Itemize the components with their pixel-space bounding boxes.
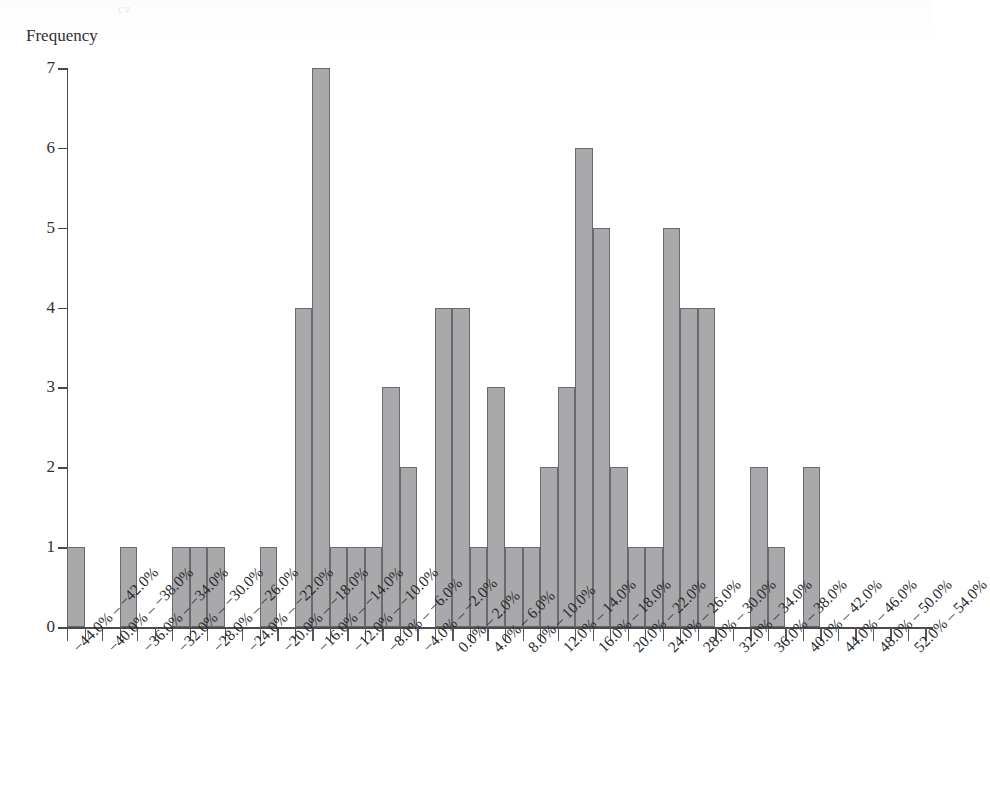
y-tick [58,547,67,549]
y-tick-label: 3 [27,378,55,395]
y-tick [58,387,67,389]
y-tick-label: 4 [27,299,55,316]
cropped-title-artifact: cv [118,2,618,16]
plot-area: 01234567 [67,68,933,628]
y-tick-label: 6 [27,139,55,156]
bar [312,68,330,627]
y-tick-label: 2 [27,458,55,475]
y-tick [58,148,67,150]
y-tick [58,308,67,310]
y-tick-label: 0 [27,618,55,635]
bar [593,228,611,627]
y-tick-label: 1 [27,538,55,555]
y-tick-label: 5 [27,219,55,236]
bar [663,228,681,627]
bar [67,547,85,627]
y-tick-label: 7 [27,59,55,76]
bar [558,387,576,627]
y-tick [58,467,67,469]
x-tick [67,628,68,641]
y-tick [58,68,67,70]
y-tick [58,627,67,629]
y-axis-line [67,68,68,628]
bar [575,148,593,627]
y-axis-title: Frequency [26,26,98,46]
y-tick [58,228,67,230]
